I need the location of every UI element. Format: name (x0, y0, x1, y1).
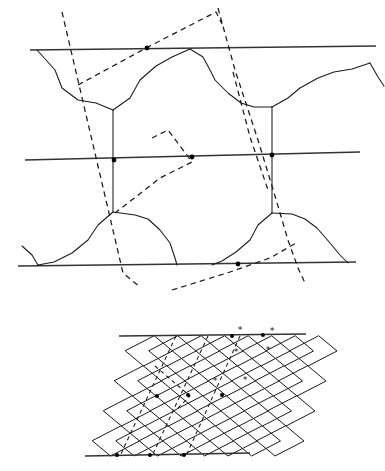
slip-band-dashed-traces (62, 8, 305, 290)
node-middle-left (112, 158, 117, 163)
slip-band-lower-trace (172, 243, 296, 290)
asterisk-4: * (266, 344, 271, 355)
grain-boundary-segment-12 (22, 246, 38, 265)
figure-root: ****** (0, 0, 385, 471)
slip-band-right-trace (218, 8, 305, 283)
grain-boundary-segment-10 (212, 213, 272, 265)
lattice-top-reference-line (119, 334, 306, 336)
grain-boundary-network-panel: ****** (0, 0, 385, 471)
lattice-node-mid-a (155, 394, 159, 398)
upper-reference-line (30, 46, 376, 50)
lattice-node-mid-c (220, 393, 224, 397)
asterisk-6: * (243, 374, 248, 385)
grain-boundary-paths (22, 49, 384, 265)
slip-band-interior-chevron (115, 130, 192, 213)
grain-boundary-segment-1 (37, 50, 113, 110)
grain-boundary-segment-3 (113, 49, 190, 110)
lattice-node-mid-b (186, 393, 190, 397)
top-reference-lines (18, 46, 376, 266)
grain-boundary-segment-7 (370, 63, 384, 86)
lattice-cell-lines (93, 336, 338, 456)
node-middle-center (190, 155, 195, 160)
lattice-node-bottom-b (148, 453, 152, 457)
slip-band-left-trace (62, 12, 140, 287)
asterisk-3: * (234, 346, 239, 357)
asterisk-2: * (270, 325, 275, 336)
lattice-node-bottom-c (182, 453, 186, 457)
lower-reference-line (18, 262, 356, 266)
grain-boundary-segment-11 (272, 213, 348, 263)
lattice-node-top-a (230, 334, 234, 338)
node-middle-right (270, 153, 275, 158)
grain-boundary-segment-9 (113, 212, 177, 265)
slip-band-right-short (233, 72, 268, 190)
grain-boundary-segment-8 (38, 212, 113, 265)
intersection-node-markers (112, 46, 275, 267)
lattice-node-bottom-a (115, 453, 119, 457)
node-bottom-line (236, 262, 241, 267)
asterisk-1: * (238, 324, 243, 335)
asterisk-5: * (213, 375, 218, 386)
lattice-bottom-reference-line (85, 453, 250, 456)
node-top-line (145, 46, 150, 51)
grain-boundary-segment-6 (272, 63, 370, 107)
lattice-node-top-b (261, 333, 265, 337)
